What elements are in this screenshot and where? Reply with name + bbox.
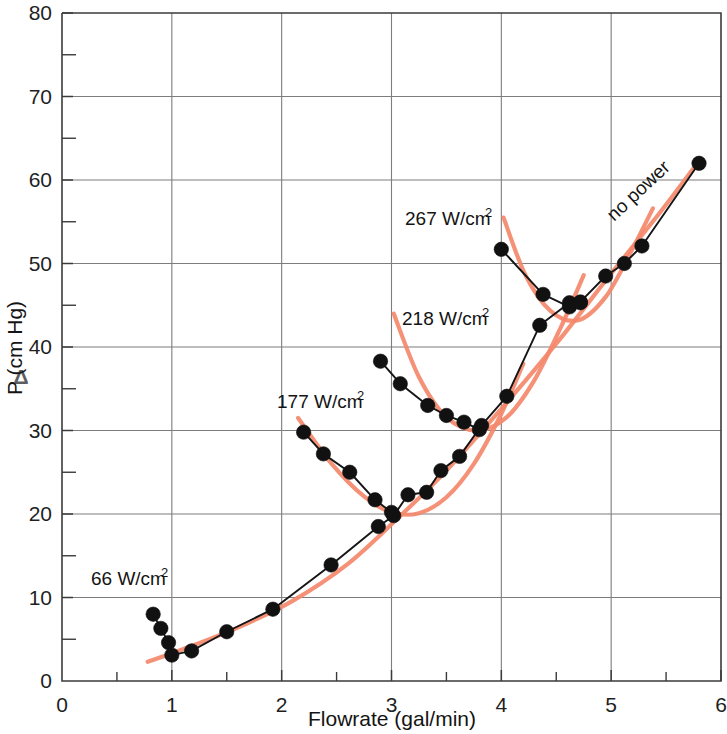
y-tick-label: 80 bbox=[29, 1, 52, 24]
annotation-66-text: 66 W/cm bbox=[91, 568, 166, 589]
data-point bbox=[617, 256, 631, 270]
data-point bbox=[393, 377, 407, 391]
x-axis-title: Flowrate (gal/min) bbox=[308, 707, 476, 730]
data-point bbox=[419, 485, 433, 499]
y-tick-label: 40 bbox=[29, 335, 52, 358]
data-point bbox=[384, 505, 398, 519]
x-tick-label: 6 bbox=[715, 693, 727, 716]
x-tick-label: 4 bbox=[495, 693, 507, 716]
data-markers-layer bbox=[146, 156, 706, 662]
data-point bbox=[573, 296, 587, 310]
annotation-218-superscript: 2 bbox=[482, 305, 489, 320]
data-point bbox=[343, 465, 357, 479]
data-point bbox=[266, 602, 280, 616]
annotation-66-superscript: 2 bbox=[161, 565, 168, 580]
annotation-267-superscript: 2 bbox=[485, 205, 492, 220]
data-point bbox=[165, 648, 179, 662]
y-tick-label: 10 bbox=[29, 586, 52, 609]
data-point bbox=[146, 607, 160, 621]
data-point bbox=[368, 493, 382, 507]
data-point bbox=[494, 242, 508, 256]
chart-figure: 0123456 01020304050607080 66 W/cm2177 W/… bbox=[0, 0, 727, 734]
y-tick-label: 60 bbox=[29, 168, 52, 191]
data-point bbox=[533, 318, 547, 332]
data-point bbox=[452, 449, 466, 463]
data-point bbox=[316, 447, 330, 461]
annotation-177-text: 177 W/cm bbox=[277, 391, 363, 412]
data-point bbox=[371, 519, 385, 533]
data-point bbox=[692, 156, 706, 170]
data-point bbox=[457, 415, 471, 429]
data-point bbox=[296, 425, 310, 439]
data-point bbox=[401, 488, 415, 502]
data-point bbox=[635, 239, 649, 253]
data-point bbox=[373, 354, 387, 368]
annotation-267: 267 W/cm2 bbox=[405, 205, 492, 229]
data-point bbox=[184, 644, 198, 658]
chart-canvas: 0123456 01020304050607080 66 W/cm2177 W/… bbox=[0, 0, 727, 734]
x-tick-label: 2 bbox=[276, 693, 288, 716]
y-tick-label: 20 bbox=[29, 502, 52, 525]
annotation-267-text: 267 W/cm bbox=[405, 208, 491, 229]
annotation-177-superscript: 2 bbox=[357, 388, 364, 403]
data-point bbox=[472, 422, 486, 436]
x-tick-label: 0 bbox=[56, 693, 68, 716]
annotation-218: 218 W/cm2 bbox=[402, 305, 489, 329]
delta-symbol-icon: Δ bbox=[13, 365, 28, 388]
data-point bbox=[536, 287, 550, 301]
data-point bbox=[439, 408, 453, 422]
y-tick-label: 0 bbox=[40, 669, 52, 692]
x-tick-label: 5 bbox=[605, 693, 617, 716]
data-point bbox=[500, 389, 514, 403]
data-point bbox=[434, 463, 448, 477]
y-tick-label: 70 bbox=[29, 85, 52, 108]
annotation-66: 66 W/cm2 bbox=[91, 565, 168, 589]
annotation-218-text: 218 W/cm bbox=[402, 308, 488, 329]
y-axis-title: P (cm Hg) Δ bbox=[3, 301, 29, 395]
data-point bbox=[598, 269, 612, 283]
data-point bbox=[324, 558, 338, 572]
data-point bbox=[161, 635, 175, 649]
y-tick-label: 50 bbox=[29, 252, 52, 275]
annotation-177: 177 W/cm2 bbox=[277, 388, 364, 412]
x-tick-label: 1 bbox=[166, 693, 178, 716]
data-point bbox=[220, 625, 234, 639]
data-point bbox=[154, 621, 168, 635]
data-point bbox=[421, 398, 435, 412]
y-tick-labels: 01020304050607080 bbox=[29, 1, 52, 692]
y-tick-label: 30 bbox=[29, 419, 52, 442]
